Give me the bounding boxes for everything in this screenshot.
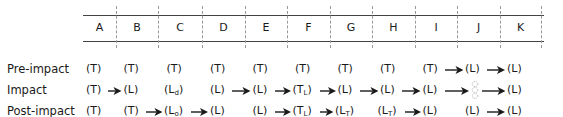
column-header-g: G — [336, 20, 366, 36]
state-label: (L) — [380, 83, 395, 96]
state-cell: (L) — [253, 104, 268, 117]
state-label: (T) — [86, 62, 101, 75]
column-separator — [158, 6, 159, 48]
right-arrow-icon — [232, 87, 251, 95]
state-label: (L) — [465, 104, 480, 117]
state-cell: (T) — [423, 62, 438, 76]
state-cell: (T) — [124, 104, 139, 117]
state-cell: (L) — [423, 104, 438, 117]
state-label: (L) — [507, 104, 522, 117]
state-label: (L) — [507, 62, 522, 75]
column-separator — [202, 6, 203, 48]
state-cell: (Lo) — [164, 104, 183, 117]
column-header-e: E — [251, 20, 281, 36]
state-label: (T) — [124, 104, 139, 117]
right-arrow-icon — [275, 87, 291, 95]
right-arrow-icon — [108, 87, 122, 95]
state-label: (L) — [210, 104, 225, 117]
state-label: (L — [378, 104, 388, 117]
state-label: (T) — [86, 83, 101, 96]
state-cell: (L) — [465, 62, 480, 76]
state-cell: (L) — [507, 62, 522, 76]
column-separator — [500, 6, 501, 48]
right-arrow-icon — [360, 87, 379, 95]
state-close-paren: ) — [307, 83, 311, 96]
state-close-paren: ) — [307, 104, 311, 117]
row-label-post-impact: Post-impact — [7, 104, 75, 117]
state-close-paren: ) — [179, 104, 183, 117]
state-label: (T) — [124, 62, 139, 75]
right-arrow-icon — [445, 66, 464, 74]
column-header-j: J — [464, 20, 494, 36]
right-arrow-icon — [405, 108, 421, 116]
right-arrow-icon — [445, 87, 469, 95]
column-header-c: C — [165, 20, 195, 36]
right-arrow-icon — [482, 87, 506, 95]
state-cell: (Ld) — [164, 83, 183, 100]
right-arrow-icon — [146, 108, 163, 116]
state-label: (L) — [338, 83, 353, 96]
table-bottom-rule — [83, 41, 544, 42]
state-cell: (T) — [167, 62, 182, 76]
state-label: (L) — [423, 104, 438, 117]
column-separator — [330, 6, 331, 48]
column-separator — [287, 6, 288, 48]
column-header-i: I — [421, 20, 451, 36]
state-cell: (L) — [253, 83, 268, 97]
column-separator — [372, 6, 373, 48]
state-label: (L) — [253, 83, 268, 96]
state-cell: (L) — [338, 83, 353, 97]
state-cell: (TL) — [293, 104, 312, 117]
state-cell: (T) — [338, 62, 353, 76]
state-label: (L) — [423, 83, 438, 96]
row-label-pre-impact: Pre-impact — [7, 62, 69, 76]
state-cell: (L) — [465, 104, 480, 117]
state-cell: (T) — [295, 62, 310, 76]
column-separator — [457, 6, 458, 48]
state-label: (T) — [423, 62, 438, 75]
state-cell: (TL) — [293, 83, 312, 100]
column-header-k: K — [506, 20, 536, 36]
column-header-h: H — [379, 20, 409, 36]
right-arrow-icon — [320, 87, 336, 95]
state-cell: (T) — [86, 83, 101, 97]
state-cell: (L) — [380, 83, 395, 97]
state-cell: (T) — [124, 62, 139, 76]
state-cell: (L) — [423, 83, 438, 97]
right-arrow-icon — [402, 87, 421, 95]
state-cell: (L) — [124, 83, 139, 97]
state-label: (L) — [124, 83, 139, 96]
state-cell: (T) — [210, 62, 225, 76]
state-cell: (L) — [210, 83, 225, 97]
state-label: (T) — [210, 62, 225, 75]
state-label: (T) — [167, 62, 182, 75]
column-separator — [245, 6, 246, 48]
state-label: (T — [293, 83, 304, 96]
column-header-a: A — [85, 20, 115, 36]
right-arrow-icon — [487, 66, 505, 74]
column-header-d: D — [209, 20, 239, 36]
state-label: (T) — [253, 62, 268, 75]
right-arrow-icon — [191, 108, 208, 116]
dotted-outline-icon — [471, 80, 479, 100]
table-top-rule — [83, 15, 544, 16]
state-cell: (T) — [86, 62, 101, 76]
state-label: (L — [335, 104, 345, 117]
state-close-paren: ) — [350, 104, 354, 117]
column-separator — [415, 6, 416, 48]
state-label: (T) — [380, 62, 395, 75]
state-label: (L — [164, 104, 174, 117]
state-cell: (T) — [380, 62, 395, 76]
state-label: (T) — [86, 104, 101, 117]
state-close-paren: ) — [392, 104, 396, 117]
state-label: (T — [293, 104, 304, 117]
row-label-impact: Impact — [7, 83, 47, 97]
right-arrow-icon — [275, 108, 291, 116]
state-close-paren: ) — [179, 83, 183, 96]
state-cell: (L) — [507, 104, 522, 117]
column-separator — [116, 6, 117, 48]
state-cell: (LT) — [378, 104, 397, 117]
state-label: (T) — [338, 62, 353, 75]
right-arrow-icon — [320, 108, 334, 116]
impact-state-diagram: ABCDEFGHIJK Pre-impact(T)(T)(T)(T)(T)(T)… — [0, 0, 563, 117]
